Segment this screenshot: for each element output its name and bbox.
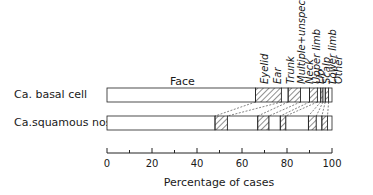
bar-segment-ear [227,116,257,130]
dashed-connectors [215,102,329,116]
segment-label-face: Face [170,75,195,88]
bar-segment-eyelid [256,88,282,102]
segment-label-other: Other [333,55,344,84]
bar-segment-other [328,116,333,130]
x-tick-label: 60 [236,158,249,169]
x-tick-label: 0 [104,158,110,169]
segment-label-trunk: Trunk [285,55,296,84]
x-tick-label: 80 [281,158,294,169]
segment-label-eyelid: Eyelid [259,53,270,84]
x-tick-label: 20 [146,158,159,169]
segment-label-ear: Ear [272,67,283,84]
bar-segment-upper-limb [286,116,309,130]
bar-segment-lower-limb [322,116,328,130]
bar-segment-multiple-unspec [301,88,310,102]
x-axis [107,148,332,153]
bar-segment-trunk [258,116,269,130]
bar-segment-lip [308,116,316,130]
x-axis-label: Percentage of cases [164,176,275,189]
bar-segment-scalp [316,116,322,130]
bar-squamous [107,116,332,130]
bar-basal-cell [107,88,332,102]
row-label-squamous: Ca.squamous nos [14,116,112,129]
row-label-basal-cell: Ca. basal cell [14,88,87,101]
x-tick-labels: 020406080100 [104,158,342,169]
stacked-bar-chart: Ca. basal cell Ca.squamous nos Face Eyel… [0,0,373,195]
bar-segment-eyelid [215,116,227,130]
bar-segment-face [107,88,256,102]
bar-segment-neck [280,116,286,130]
x-tick-label: 100 [322,158,341,169]
bar-segment-face [107,116,215,130]
bar-segment-upper-limb [317,88,320,102]
bar-segment-ear [281,88,288,102]
bar-segment-other [329,88,332,102]
x-tick-label: 40 [191,158,204,169]
bar-segment-trunk [288,88,300,102]
rotated-segment-labels: EyelidEarTrunkMultiple+unspecNeckUpper l… [259,0,344,84]
bar-segment-neck [310,88,318,102]
bar-segment-multiple-unspec [269,116,280,130]
bar-segment-lower-limb [325,88,328,102]
